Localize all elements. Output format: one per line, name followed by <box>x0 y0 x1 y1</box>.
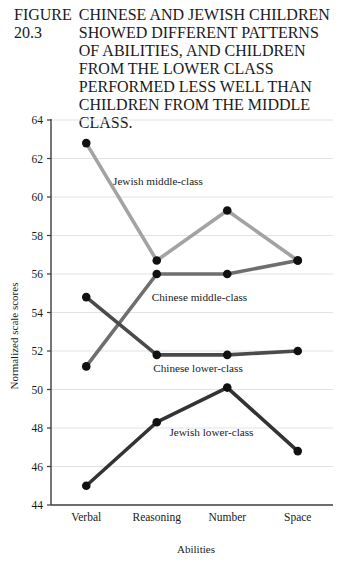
y-axis-title: Normalized scale scores <box>8 283 20 390</box>
chart-svg: 4446485052545658606264 VerbalReasoningNu… <box>0 0 340 564</box>
data-point <box>293 256 302 265</box>
x-axis-tick-labels: VerbalReasoningNumberSpace <box>71 511 311 524</box>
data-point <box>152 270 161 279</box>
series-label: Jewish lower-class <box>169 426 253 438</box>
y-tick-label: 52 <box>32 345 44 357</box>
data-point <box>223 383 232 392</box>
data-point <box>82 139 91 148</box>
y-tick-label: 44 <box>32 499 44 511</box>
data-point <box>223 206 232 215</box>
data-point <box>293 347 302 356</box>
y-tick-label: 56 <box>32 268 44 280</box>
x-tick-label: Space <box>284 511 311 524</box>
data-point <box>223 351 232 360</box>
data-point <box>82 481 91 490</box>
y-tick-label: 60 <box>32 191 44 203</box>
data-point <box>152 418 161 427</box>
x-tick-label: Verbal <box>71 511 101 523</box>
x-axis-title: Abilities <box>177 543 215 555</box>
series-label: Chinese middle-class <box>152 291 247 303</box>
series-line <box>86 143 298 260</box>
y-tick-label: 46 <box>32 461 44 473</box>
x-tick-label: Reasoning <box>132 511 181 524</box>
data-point <box>82 362 91 371</box>
data-point <box>223 270 232 279</box>
x-tick-label: Number <box>208 511 246 523</box>
data-point <box>293 447 302 456</box>
y-tick-label: 54 <box>32 307 44 319</box>
y-tick-label: 48 <box>32 422 44 434</box>
series-label: Chinese lower-class <box>153 362 243 374</box>
y-tick-label: 62 <box>32 153 44 165</box>
series-label: Jewish middle-class <box>113 175 203 187</box>
y-tick-label: 58 <box>32 230 44 242</box>
y-axis-tick-labels: 4446485052545658606264 <box>32 114 44 511</box>
data-point <box>82 293 91 302</box>
data-point <box>152 256 161 265</box>
y-tick-label: 64 <box>32 114 44 126</box>
y-tick-label: 50 <box>32 384 44 396</box>
data-point <box>152 351 161 360</box>
line-chart: 4446485052545658606264 VerbalReasoningNu… <box>0 0 340 564</box>
